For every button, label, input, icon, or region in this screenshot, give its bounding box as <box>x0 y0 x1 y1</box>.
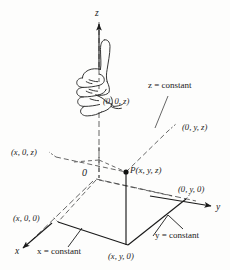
y-constant-label: y = constant <box>155 231 199 240</box>
z-constant-label: z = constant <box>148 81 192 90</box>
origin-label: 0 <box>82 168 87 178</box>
point-p-marker <box>123 169 128 174</box>
x-constant-leader <box>68 228 82 247</box>
z-constant-leader <box>155 96 168 128</box>
point-x-y-0-label: (x, y, 0) <box>108 252 134 261</box>
point-0-y-z-label: (0, y, z) <box>182 123 207 132</box>
x-axis-label: x <box>15 247 19 257</box>
coordinate-system-figure: z y x 0 P(x, y, z) (0, 0, z) (0, y, z) (… <box>0 0 230 270</box>
point-x-0-z-label: (x, 0, z) <box>11 148 37 157</box>
y-constant-leader2 <box>168 215 183 229</box>
z-axis-label: z <box>95 9 99 19</box>
yz-corner-dashed <box>99 160 126 172</box>
x-axis-solid <box>23 223 52 248</box>
point-p-label: P(x, y, z) <box>130 166 162 175</box>
y-axis-label: y <box>216 203 220 213</box>
point-0-0-z-label: (0, 0, z) <box>103 97 129 106</box>
xz-point-leader <box>49 152 56 157</box>
yz-point-leader <box>168 124 176 131</box>
x-axis-dashed <box>30 181 93 242</box>
point-x-0-0-label: (x, 0, 0) <box>13 214 40 223</box>
z-constant-plane-line <box>56 157 126 172</box>
x-constant-label: x = constant <box>37 247 81 256</box>
point-0-y-0-label: (0, y, 0) <box>178 185 204 194</box>
box-hidden-edges <box>58 180 172 222</box>
